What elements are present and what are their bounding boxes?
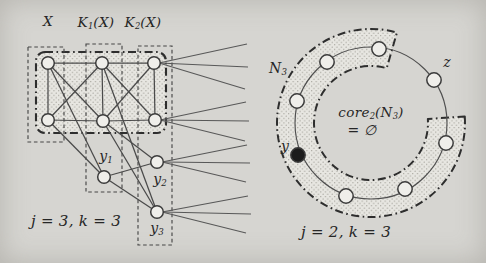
label-node-y1: y1 bbox=[99, 149, 113, 165]
label-k2-closure: K2(X) bbox=[125, 16, 162, 31]
graph-node-t1 bbox=[42, 57, 55, 70]
graph-node-top bbox=[372, 42, 386, 56]
external-edge-y2 bbox=[162, 145, 247, 162]
external-edge-b3 bbox=[160, 120, 245, 141]
graph-node-b3 bbox=[149, 114, 162, 127]
graph-node-b2 bbox=[97, 115, 110, 128]
caption-left: j = 3, k = 3 bbox=[31, 214, 121, 229]
external-edge-y2 bbox=[162, 162, 246, 182]
graph-node-bottom-right bbox=[398, 182, 412, 196]
label-node-y2: y2 bbox=[153, 172, 167, 188]
graph-node-y3 bbox=[151, 206, 164, 219]
label-node-z: z bbox=[443, 55, 451, 69]
external-edge-y3 bbox=[162, 196, 248, 212]
graph-edge-b2-y3 bbox=[103, 121, 157, 212]
graph-node-right bbox=[439, 136, 453, 150]
external-edge-y3 bbox=[162, 212, 251, 214]
graph-node-t2 bbox=[96, 57, 109, 70]
graph-node-y bbox=[291, 148, 305, 162]
graph-node-b1 bbox=[42, 114, 55, 127]
graph-edge-y1-y3 bbox=[104, 177, 157, 212]
graph-node-upper-left bbox=[320, 55, 334, 69]
graph-node-y2 bbox=[151, 156, 164, 169]
graph-node-z bbox=[427, 73, 441, 87]
external-edge-y3 bbox=[162, 212, 246, 233]
figure-graph-closures: X K1(X) K2(X) y1 y2 y3 j = 3, k = 3 N3 z… bbox=[0, 0, 486, 263]
graph-node-y1 bbox=[98, 171, 111, 184]
graph-node-bottom-left bbox=[339, 189, 353, 203]
label-empty-set: = ∅ bbox=[347, 123, 376, 137]
graph-node-t3 bbox=[148, 57, 161, 70]
label-node-y3: y3 bbox=[150, 221, 164, 237]
label-core-expression: core2(N3) bbox=[338, 106, 403, 121]
label-set-x: X bbox=[43, 15, 53, 29]
label-neighborhood-n3: N3 bbox=[269, 61, 287, 77]
caption-right: j = 2, k = 3 bbox=[301, 225, 391, 240]
label-node-y: y bbox=[281, 139, 289, 153]
external-edge-y2 bbox=[162, 162, 250, 163]
label-k1-closure: K1(X) bbox=[78, 16, 115, 31]
graph-node-left bbox=[290, 94, 304, 108]
external-edge-b3 bbox=[160, 120, 249, 121]
external-edge-b3 bbox=[160, 102, 246, 120]
